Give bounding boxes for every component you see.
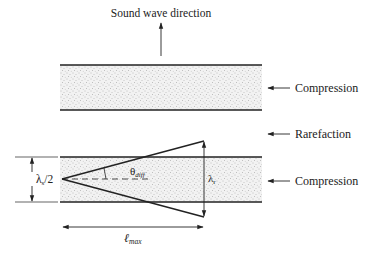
compression-label: Compression — [295, 81, 358, 95]
band-fill — [60, 157, 262, 202]
bottom-compression-band — [60, 157, 262, 202]
layer-label-compression-top: Compression — [268, 81, 358, 95]
layer-label-rarefaction: Rarefaction — [268, 127, 351, 141]
top-compression-band — [60, 65, 262, 110]
half-wavelength-label: λs/2 — [36, 173, 54, 187]
rarefaction-label: Rarefaction — [295, 127, 351, 141]
half-wavelength-dimension: λs/2 — [15, 157, 58, 202]
sound-wave-direction: Sound wave direction — [111, 7, 212, 56]
sound-wave-diagram: Sound wave direction Compression Rarefac… — [0, 0, 375, 257]
length-max-label: ℓmax — [124, 231, 142, 246]
compression-label: Compression — [295, 174, 358, 188]
layer-label-compression-bottom: Compression — [268, 174, 358, 188]
band-fill — [60, 65, 262, 110]
sound-wave-direction-label: Sound wave direction — [111, 7, 212, 19]
length-max-dimension: ℓmax — [63, 227, 203, 246]
